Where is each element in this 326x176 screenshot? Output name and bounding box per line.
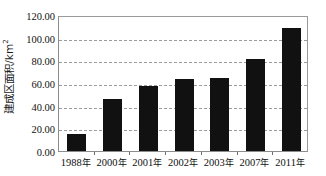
x-axis-tick-mark (237, 152, 238, 155)
y-axis-tick-label: 100.00 (26, 33, 55, 44)
y-axis-tick-label: 0.00 (37, 147, 55, 158)
y-axis-tick-labels: 0.0020.0040.0060.0080.00100.00120.00 (14, 10, 58, 156)
bars-group (59, 17, 307, 151)
bar (175, 79, 194, 151)
x-axis-tick-mark (201, 152, 202, 155)
bar (282, 28, 301, 151)
x-axis-tick-label: 2003年 (204, 156, 234, 170)
x-axis-tick-mark (165, 152, 166, 155)
y-axis-tick-label: 60.00 (31, 79, 55, 90)
y-axis-tick-label: 40.00 (31, 101, 55, 112)
y-axis-title-superscript: 2 (2, 39, 10, 43)
bar (139, 86, 158, 151)
x-axis-tick-label: 2002年 (168, 156, 198, 170)
bar (210, 78, 229, 151)
bar-chart: 建成区面积/km2 0.0020.0040.0060.0080.00100.00… (0, 0, 326, 176)
x-axis-tick-label: 2001年 (132, 156, 162, 170)
x-axis-tick-label: 1988年 (61, 156, 91, 170)
x-axis-tick-label: 2011年 (275, 156, 305, 170)
y-axis-tick-label: 20.00 (31, 124, 55, 135)
bar (103, 99, 122, 151)
bar (246, 59, 265, 151)
x-axis-tick-label: 2007年 (239, 156, 269, 170)
x-axis-tick-labels: 1988年2000年2001年2002年2003年2007年2011年 (58, 156, 308, 174)
y-axis-tick-label: 80.00 (31, 56, 55, 67)
x-axis-tick-mark (129, 152, 130, 155)
x-axis-tick-label: 2000年 (97, 156, 127, 170)
x-axis-tick-mark (94, 152, 95, 155)
y-axis-tick-label: 120.00 (26, 11, 55, 22)
y-axis-title-text: 建成区面积/km (3, 43, 15, 113)
plot-area (58, 16, 308, 152)
x-axis-tick-mark (272, 152, 273, 155)
bar (67, 134, 86, 151)
